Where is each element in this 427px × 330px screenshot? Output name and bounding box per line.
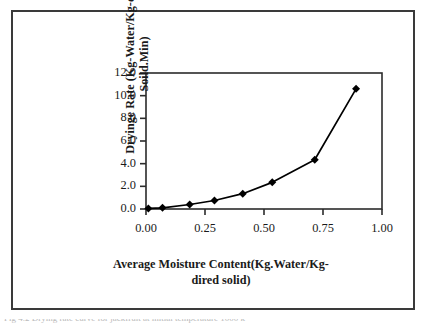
y-tick-label: 2.0 bbox=[102, 178, 136, 193]
y-tick-label: 12.0 bbox=[102, 65, 136, 80]
x-tick-label: 1.00 bbox=[360, 221, 404, 236]
x-tick-label: 0.75 bbox=[301, 221, 345, 236]
x-axis-title: Average Moisture Content(Kg.Water/Kg- di… bbox=[76, 256, 366, 288]
y-tick-label: 10.0 bbox=[102, 88, 136, 103]
y-tick-label: 4.0 bbox=[102, 156, 136, 171]
drying-rate-markers bbox=[144, 85, 360, 213]
plot-area-frame bbox=[146, 73, 382, 209]
figure-caption: Fig 4.2 Drying rate curve for jackfruit … bbox=[4, 319, 304, 329]
figure-caption-text: Fig 4.2 Drying rate curve for jackfruit … bbox=[4, 319, 304, 323]
y-tick-label: 0.0 bbox=[102, 201, 136, 216]
x-tick-label: 0.00 bbox=[124, 221, 168, 236]
y-tick-label: 8.0 bbox=[102, 110, 136, 125]
x-axis-ticks bbox=[146, 209, 382, 215]
x-tick-label: 0.25 bbox=[183, 221, 227, 236]
y-axis-ticks bbox=[140, 73, 146, 209]
y-tick-label: 6.0 bbox=[102, 133, 136, 148]
drying-rate-line bbox=[148, 89, 356, 209]
x-axis-title-text: Average Moisture Content(Kg.Water/Kg- di… bbox=[76, 256, 366, 288]
x-tick-label: 0.50 bbox=[242, 221, 286, 236]
